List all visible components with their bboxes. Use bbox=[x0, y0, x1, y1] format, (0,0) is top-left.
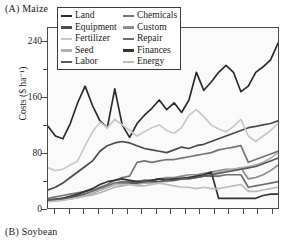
x-tick bbox=[272, 209, 273, 214]
panel-b-label: (B) Soybean bbox=[5, 226, 57, 237]
legend-line-swatch bbox=[123, 38, 134, 41]
x-tick bbox=[69, 209, 70, 214]
series-line bbox=[48, 110, 278, 171]
legend-item[interactable]: Seed bbox=[61, 46, 123, 56]
legend-item[interactable]: Labor bbox=[61, 57, 123, 67]
x-tick bbox=[127, 209, 128, 214]
legend-line-swatch bbox=[61, 49, 72, 52]
x-tick bbox=[112, 209, 113, 214]
x-tick bbox=[214, 209, 215, 214]
legend-item[interactable]: Finances bbox=[123, 46, 183, 56]
y-tick-major bbox=[41, 209, 47, 210]
legend-item-label: Chemicals bbox=[137, 11, 177, 21]
x-tick bbox=[98, 209, 99, 214]
legend-item-label: Land bbox=[75, 11, 95, 21]
legend-line-swatch bbox=[61, 15, 72, 18]
legend-item[interactable]: Equipment bbox=[61, 23, 123, 33]
legend-item-label: Custom bbox=[137, 23, 167, 33]
x-tick bbox=[156, 209, 157, 214]
x-tick bbox=[83, 209, 84, 214]
legend-item[interactable]: Repair bbox=[123, 34, 183, 44]
legend-item[interactable]: Energy bbox=[123, 57, 183, 67]
x-tick bbox=[54, 209, 55, 214]
x-tick bbox=[257, 209, 258, 214]
legend-line-swatch bbox=[123, 26, 134, 29]
legend-line-swatch bbox=[61, 26, 72, 29]
legend-item-label: Repair bbox=[137, 34, 162, 44]
legend-line-swatch bbox=[61, 38, 72, 41]
legend-line-swatch bbox=[123, 15, 134, 18]
legend-item[interactable]: Fertilizer bbox=[61, 34, 123, 44]
legend-item-label: Fertilizer bbox=[75, 34, 110, 44]
y-tick-label: 240 bbox=[28, 36, 42, 46]
legend-item[interactable]: Chemicals bbox=[123, 11, 183, 21]
legend-box: LandChemicalsEquipmentCustomFertilizerRe… bbox=[57, 7, 181, 70]
legend-item-label: Seed bbox=[75, 46, 93, 56]
legend-line-swatch bbox=[61, 61, 72, 64]
y-axis-tick-labels: 240160800 bbox=[18, 0, 42, 240]
x-tick bbox=[185, 209, 186, 214]
legend-line-swatch bbox=[123, 61, 134, 64]
x-tick bbox=[199, 209, 200, 214]
legend-item-label: Finances bbox=[137, 46, 171, 56]
x-tick bbox=[243, 209, 244, 214]
legend-item-label: Labor bbox=[75, 57, 98, 67]
x-tick bbox=[141, 209, 142, 214]
figure-root: (A) Maize Costs ($ ha⁻¹) 240160800 LandC… bbox=[0, 0, 286, 240]
legend-line-swatch bbox=[123, 49, 134, 52]
legend-item-label: Equipment bbox=[75, 23, 117, 33]
x-tick bbox=[228, 209, 229, 214]
x-tick bbox=[170, 209, 171, 214]
legend-item[interactable]: Land bbox=[61, 11, 123, 21]
legend-item[interactable]: Custom bbox=[123, 23, 183, 33]
legend-item-label: Energy bbox=[137, 57, 164, 67]
y-tick-label: 160 bbox=[28, 92, 42, 102]
